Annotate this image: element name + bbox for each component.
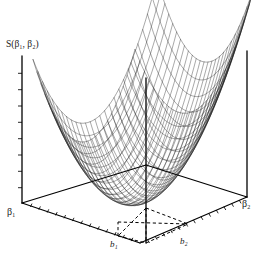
plot-background	[0, 0, 269, 265]
surface-plot-canvas	[0, 0, 269, 265]
b2-tick-label: b₂	[180, 237, 188, 246]
figure-caption	[0, 256, 269, 265]
figure-root: S(β₁, β₂) β₁ β₂ b₁ b₂	[0, 0, 269, 265]
b1-tick-label: b₁	[110, 240, 118, 249]
vertical-axis-label: S(β₁, β₂)	[6, 40, 39, 50]
beta2-axis-label: β₂	[242, 199, 251, 209]
beta1-axis-label: β₁	[7, 207, 16, 217]
